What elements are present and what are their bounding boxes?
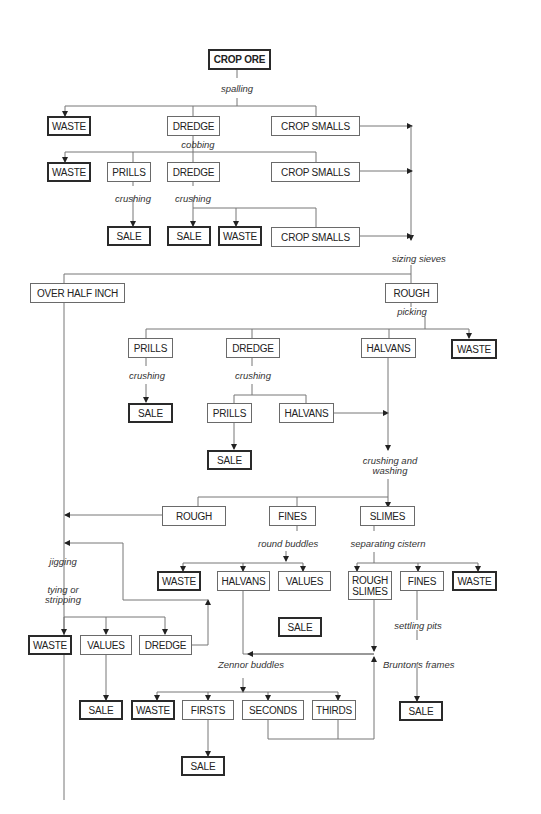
node-firsts: FIRSTS [182, 700, 234, 720]
node-crop-smalls: CROP SMALLS [271, 227, 360, 247]
label-crushing: crushing [128, 370, 166, 381]
label-crushing: crushing [234, 370, 272, 381]
label-jigging: jigging [46, 556, 80, 567]
node-halvans: HALVANS [361, 338, 416, 358]
node-prills: PRILLS [107, 162, 151, 182]
node-dredge: DREDGE [139, 635, 192, 655]
label-picking: picking [397, 306, 427, 317]
node-crop-ore: CROP ORE [208, 49, 271, 70]
node-thirds: THIRDS [312, 700, 356, 720]
node-rough: ROUGH [385, 283, 438, 303]
label-crushing: crushing [173, 193, 213, 204]
label-zennor-buddles: Zennor buddles [218, 659, 276, 670]
node-fines: FINES [269, 506, 316, 526]
node-rough-slimes: ROUGH SLIMES [348, 571, 392, 600]
node-waste: WASTE [47, 162, 91, 182]
label-tying-or-stripping: stripping [40, 594, 86, 605]
flowchart-canvas: CROP ORE spalling WASTE DREDGE CROP SMAL… [0, 0, 541, 814]
node-sale: SALE [399, 701, 443, 721]
node-waste: WASTE [218, 226, 262, 246]
label-cobbing: cobbing [178, 139, 218, 150]
node-waste: WASTE [451, 339, 497, 359]
node-prills: PRILLS [128, 338, 173, 358]
label-crushing: crushing [113, 193, 153, 204]
node-values: VALUES [80, 635, 132, 655]
node-halvans: HALVANS [279, 403, 334, 423]
node-sale: SALE [128, 403, 173, 423]
node-seconds: SECONDS [242, 700, 304, 720]
node-dredge: DREDGE [167, 162, 220, 182]
label-sizing-sieves: sizing sieves [392, 253, 440, 264]
node-dredge: DREDGE [226, 338, 280, 358]
node-waste: WASTE [131, 700, 175, 720]
node-sale: SALE [107, 226, 151, 246]
label-spalling: spalling [213, 83, 261, 94]
node-dredge: DREDGE [167, 116, 220, 136]
node-over-half-inch: OVER HALF INCH [30, 283, 125, 303]
label-round-buddles: round buddles [258, 538, 318, 549]
node-waste: WASTE [452, 571, 497, 591]
label-crushing-and-washing: washing [362, 465, 418, 476]
node-waste: WASTE [47, 116, 91, 136]
node-sale: SALE [167, 226, 211, 246]
node-sale: SALE [181, 756, 225, 776]
node-values: VALUES [278, 571, 331, 591]
node-crop-smalls: CROP SMALLS [271, 162, 360, 182]
node-sale: SALE [207, 450, 252, 470]
node-sale: SALE [278, 617, 322, 637]
label-bruntons-frames: Brunton's frames [383, 659, 445, 670]
label-settling-pits: settling pits [393, 620, 443, 631]
label-separating-cistern: separating cistern [350, 538, 426, 549]
node-rough: ROUGH [162, 506, 226, 526]
node-fines: FINES [400, 571, 444, 591]
node-waste: WASTE [28, 635, 72, 655]
node-slimes: SLIMES [360, 506, 415, 526]
node-crop-smalls: CROP SMALLS [271, 116, 360, 136]
node-waste: WASTE [157, 571, 201, 591]
node-halvans: HALVANS [217, 571, 270, 591]
node-prills: PRILLS [207, 403, 252, 423]
node-sale: SALE [79, 700, 123, 720]
